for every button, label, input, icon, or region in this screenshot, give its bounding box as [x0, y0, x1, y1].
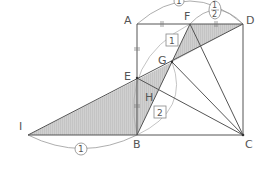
arc-label-FD-numerator: 1: [212, 1, 217, 10]
arc-label-AD: 1: [176, 0, 182, 6]
line-GC: [172, 62, 243, 135]
arc-label-IB: 1: [78, 144, 84, 154]
line-EC: [137, 78, 243, 135]
label-F: F: [184, 10, 190, 23]
label-H: H: [145, 91, 153, 104]
geometry-diagram: A D F B C E G H I 1 1 2 1 1 2: [0, 0, 269, 178]
point-G-dot: [171, 61, 173, 63]
box-label-FG: 1: [169, 36, 175, 46]
point-C-dot: [242, 134, 245, 137]
label-C: C: [245, 138, 253, 151]
box-label-GB: 2: [157, 108, 163, 118]
point-E-dot: [136, 77, 138, 79]
label-G: G: [158, 54, 167, 67]
label-A: A: [124, 14, 132, 27]
line-FC: [190, 24, 243, 135]
label-E: E: [124, 70, 131, 83]
arc-label-FD-denominator: 2: [212, 10, 217, 19]
label-D: D: [246, 14, 254, 27]
label-B: B: [133, 138, 141, 151]
label-I: I: [19, 120, 22, 133]
